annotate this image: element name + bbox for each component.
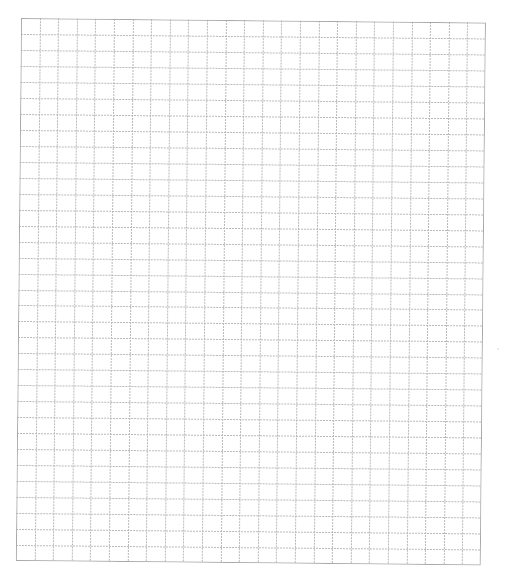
grid: [16, 18, 486, 565]
paper-speck: [497, 348, 499, 350]
grid-lines: [16, 18, 486, 565]
graph-paper-page: [0, 0, 507, 583]
